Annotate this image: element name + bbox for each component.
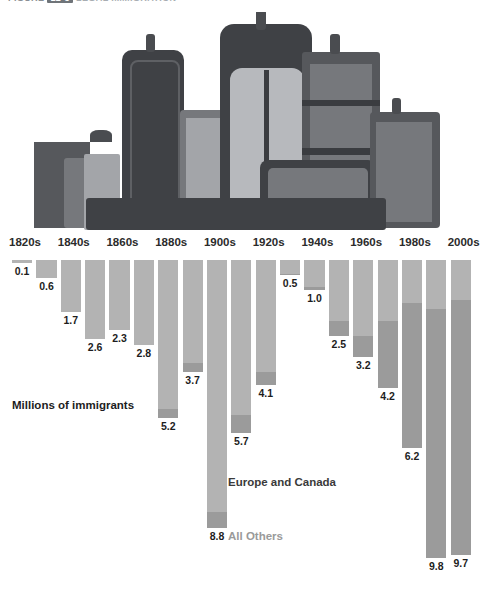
decade-label-1960s: 1960s [350, 236, 382, 248]
bar-value-1870s: 2.8 [137, 347, 152, 359]
bar-1890s: 3.7 [183, 260, 203, 372]
bar-1820s: 0.1 [12, 260, 32, 263]
vintage-luggage-photograph [34, 12, 449, 230]
figure-root: FIGURE12-3LEGAL IMMIGRATION 1820s1840s18… [0, 0, 483, 592]
bar-segment-europe-canada [231, 260, 251, 415]
bar-value-1980s: 6.2 [405, 450, 420, 462]
decade-label-1940s: 1940s [301, 236, 333, 248]
immigration-bar-chart: 1820s1840s1860s1880s1900s1920s1940s1960s… [0, 236, 483, 592]
bar-value-1890s: 3.7 [185, 374, 200, 386]
bar-segment-all-others [183, 363, 203, 372]
bar-1960s: 3.2 [353, 260, 373, 357]
decade-label-1900s: 1900s [204, 236, 236, 248]
bar-segment-europe-canada [402, 260, 422, 303]
figure-caption-prefix: FIGURE [8, 0, 44, 3]
decade-label-1820s: 1820s [9, 236, 41, 248]
bar-1900s: 8.8 [207, 260, 227, 528]
bar-segment-europe-canada [183, 260, 203, 363]
bar-segment-all-others [353, 336, 373, 357]
bar-value-1930s: 0.5 [283, 277, 298, 289]
bar-1850s: 2.6 [85, 260, 105, 339]
bar-value-1960s: 3.2 [356, 359, 371, 371]
bar-segment-all-others [329, 321, 349, 336]
bar-segment-europe-canada [353, 260, 373, 336]
bar-1940s: 1.0 [304, 260, 324, 290]
bar-segment-all-others [402, 303, 422, 449]
bar-1990s: 9.8 [426, 260, 446, 558]
bar-segment-europe-canada [109, 260, 129, 330]
bar-1920s: 4.1 [256, 260, 276, 385]
decade-label-2000s: 2000s [448, 236, 480, 248]
bar-value-1910s: 5.7 [234, 435, 249, 447]
bar-1930s: 0.5 [280, 260, 300, 275]
bar-value-1830s: 0.6 [39, 280, 54, 292]
bar-segment-all-others [280, 274, 300, 276]
bar-segment-europe-canada [61, 260, 81, 312]
bar-segment-europe-canada [304, 260, 324, 287]
bar-segment-all-others [256, 372, 276, 384]
bar-segment-all-others [304, 287, 324, 290]
bar-value-1920s: 4.1 [258, 387, 273, 399]
bar-value-1880s: 5.2 [161, 420, 176, 432]
bar-segment-all-others [231, 415, 251, 433]
bar-value-1840s: 1.7 [64, 314, 79, 326]
bar-value-2000s: 9.7 [453, 557, 468, 569]
decade-label-1860s: 1860s [106, 236, 138, 248]
bar-1860s: 2.3 [109, 260, 129, 330]
decade-label-1880s: 1880s [155, 236, 187, 248]
figure-title: LEGAL IMMIGRATION [76, 0, 176, 3]
bar-segment-europe-canada [36, 260, 56, 278]
bar-1980s: 6.2 [402, 260, 422, 448]
bar-1910s: 5.7 [231, 260, 251, 433]
bar-segment-europe-canada [378, 260, 398, 321]
bar-1950s: 2.5 [329, 260, 349, 336]
bar-segment-europe-canada [12, 260, 32, 263]
bar-1970s: 4.2 [378, 260, 398, 388]
bar-value-1850s: 2.6 [88, 341, 103, 353]
figure-number: 12-3 [47, 0, 73, 3]
bar-2000s: 9.7 [451, 260, 471, 555]
decade-label-1840s: 1840s [58, 236, 90, 248]
bar-1830s: 0.6 [36, 260, 56, 278]
y-axis-title: Millions of immigrants [12, 399, 134, 411]
bar-1840s: 1.7 [61, 260, 81, 312]
bar-segment-europe-canada [426, 260, 446, 309]
bar-segment-europe-canada [451, 260, 471, 300]
bar-value-1950s: 2.5 [332, 338, 347, 350]
bar-segment-all-others [378, 321, 398, 388]
bar-segment-all-others [158, 409, 178, 418]
bar-segment-europe-canada [158, 260, 178, 409]
bar-value-1970s: 4.2 [380, 390, 395, 402]
legend-all-others: All Others [228, 530, 283, 542]
figure-caption: FIGURE12-3LEGAL IMMIGRATION [8, 0, 177, 5]
bar-segment-europe-canada [280, 260, 300, 274]
bar-1880s: 5.2 [158, 260, 178, 418]
bar-value-1820s: 0.1 [15, 265, 30, 277]
bar-value-1900s: 8.8 [210, 530, 225, 542]
bar-segment-europe-canada [85, 260, 105, 339]
bar-segment-europe-canada [134, 260, 154, 345]
decade-axis: 1820s1840s1860s1880s1900s1920s1940s1960s… [0, 236, 483, 254]
bar-segment-all-others [207, 512, 227, 527]
bar-1870s: 2.8 [134, 260, 154, 345]
bar-value-1940s: 1.0 [307, 292, 322, 304]
bar-segment-europe-canada [329, 260, 349, 321]
bar-segment-all-others [426, 309, 446, 558]
decade-label-1980s: 1980s [399, 236, 431, 248]
legend-europe-canada: Europe and Canada [228, 476, 336, 488]
decade-label-1920s: 1920s [253, 236, 285, 248]
bar-segment-europe-canada [256, 260, 276, 372]
bar-value-1860s: 2.3 [112, 332, 127, 344]
bar-value-1990s: 9.8 [429, 560, 444, 572]
bar-segment-all-others [451, 300, 471, 555]
bar-segment-europe-canada [207, 260, 227, 512]
